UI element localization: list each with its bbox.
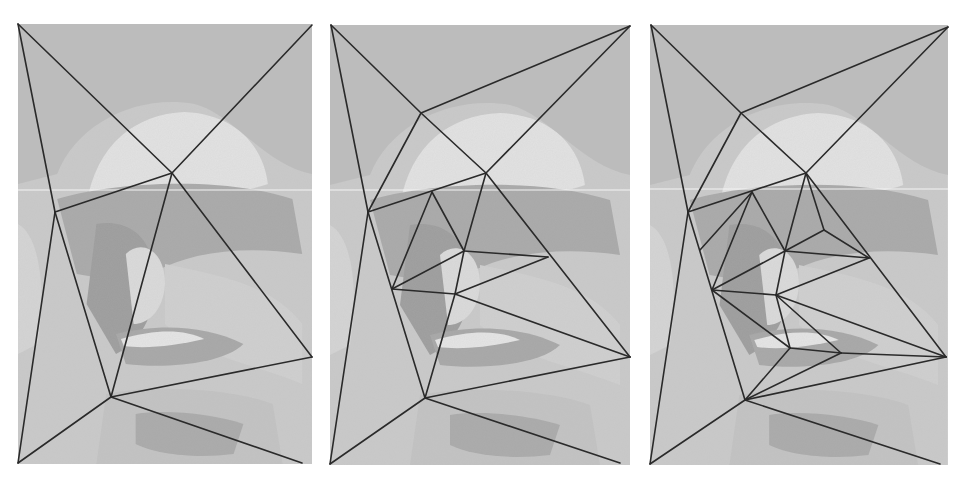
panel-1: [18, 24, 312, 464]
photo-background: [330, 25, 630, 465]
photo-background: [18, 24, 312, 464]
panel-3: [650, 25, 948, 465]
panel-2: [330, 25, 630, 465]
figure-stage: [0, 0, 972, 496]
photo-background: [650, 25, 948, 465]
triangulation-figure: [0, 0, 972, 496]
